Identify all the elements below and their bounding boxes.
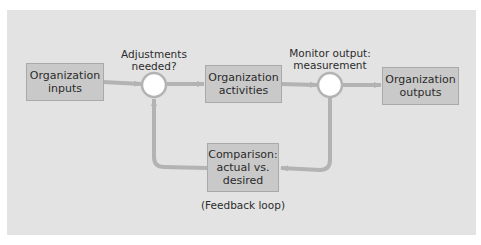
- arrow-activities-to-monitor: [281, 84, 317, 85]
- adjustments-needed-label: Adjustments needed?: [114, 48, 194, 72]
- comparison-box: Comparison: actual vs. desired: [207, 143, 279, 192]
- organization-inputs-box: Organization inputs: [26, 63, 104, 101]
- arrow-comparison-to-adjustments: [154, 99, 207, 168]
- arrow-inputs-to-adjustments: [103, 82, 141, 84]
- arrow-monitor-to-comparison: [281, 98, 330, 170]
- monitor-output-label: Monitor output: measurement: [283, 47, 377, 71]
- feedback-loop-label: (Feedback loop): [193, 199, 293, 211]
- monitor-node: [318, 73, 342, 97]
- comparison-label: Comparison: actual vs. desired: [208, 148, 278, 187]
- organization-outputs-box: Organization outputs: [382, 67, 459, 105]
- adjustments-node: [142, 73, 166, 97]
- organization-outputs-label: Organization outputs: [385, 73, 455, 99]
- organization-activities-label: Organization activities: [208, 71, 278, 97]
- organization-activities-box: Organization activities: [205, 65, 282, 103]
- organization-inputs-label: Organization inputs: [30, 69, 100, 95]
